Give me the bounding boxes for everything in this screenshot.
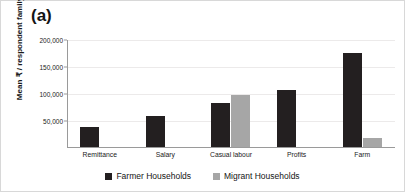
- plot-area: 200,000150,000100,00050,000: [67, 40, 395, 148]
- bar-group: [264, 40, 330, 148]
- bar: [146, 116, 165, 148]
- x-axis-label: Salary: [133, 151, 199, 158]
- figure-panel-a: (a) Mean ₹ / respondent family 200,00015…: [0, 0, 405, 192]
- panel-label: (a): [31, 7, 52, 24]
- bar: [80, 127, 99, 148]
- bar-group: [67, 40, 133, 148]
- bar-group-bars: [198, 40, 264, 148]
- bar-group: [133, 40, 199, 148]
- x-axis-label: Farm: [329, 151, 395, 158]
- y-tick-label: 100,000: [40, 91, 64, 98]
- bar: [231, 95, 250, 148]
- y-axis-title: Mean ₹ / respondent family: [15, 0, 24, 104]
- x-axis-label: Remittance: [67, 151, 133, 158]
- bar-group-bars: [133, 40, 199, 148]
- x-axis-label: Profits: [264, 151, 330, 158]
- x-axis-label: Casual labour: [198, 151, 264, 158]
- legend-label: Migrant Households: [224, 171, 300, 181]
- y-tick-label: 50,000: [43, 118, 63, 125]
- y-tick-label: 200,000: [40, 37, 64, 44]
- bar-groups: [67, 40, 395, 148]
- plot-inner: 200,000150,000100,00050,000: [67, 40, 395, 148]
- legend-item[interactable]: Migrant Households: [213, 171, 300, 181]
- legend-swatch-icon: [213, 173, 220, 180]
- x-axis-labels: RemittanceSalaryCasual labourProfitsFarm: [67, 151, 395, 158]
- bar: [277, 90, 296, 148]
- bar: [343, 53, 362, 148]
- bar-group: [329, 40, 395, 148]
- bar-group: [198, 40, 264, 148]
- y-tick-label: 150,000: [40, 64, 64, 71]
- chart-legend: Farmer HouseholdsMigrant Households: [1, 171, 404, 181]
- bar: [211, 103, 230, 148]
- x-axis-line: [67, 147, 395, 148]
- legend-item[interactable]: Farmer Households: [105, 171, 191, 181]
- legend-label: Farmer Households: [116, 171, 191, 181]
- bar-group-bars: [67, 40, 133, 148]
- legend-swatch-icon: [105, 173, 112, 180]
- bar-group-bars: [264, 40, 330, 148]
- bar-group-bars: [329, 40, 395, 148]
